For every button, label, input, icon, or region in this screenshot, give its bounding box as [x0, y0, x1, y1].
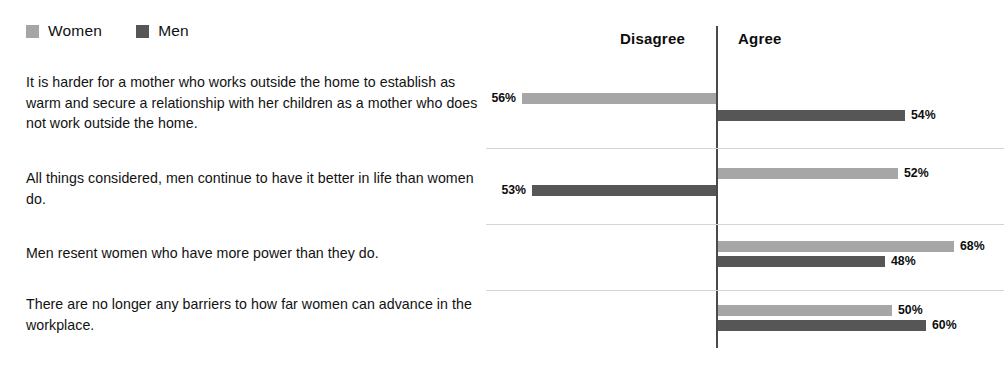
gridline-1: [486, 148, 1004, 149]
bar-label-men-row-4: 60%: [932, 320, 957, 331]
bar-label-women-row-1: 56%: [478, 93, 516, 104]
statement-row-1: It is harder for a mother who works outs…: [26, 72, 481, 134]
statement-row-4: There are no longer any barriers to how …: [26, 294, 481, 335]
women-swatch-icon: [26, 25, 39, 38]
bar-women-row-3: [718, 241, 954, 252]
legend-label-men: Men: [158, 22, 189, 40]
statement-row-3: Men resent women who have more power tha…: [26, 243, 481, 264]
bar-women-row-4: [718, 305, 892, 316]
column-header-disagree: Disagree: [620, 30, 685, 47]
bar-label-women-row-2: 52%: [904, 168, 929, 179]
bar-men-row-1: [718, 110, 905, 121]
bar-men-row-2: [532, 185, 716, 196]
chart-legend: Women Men: [26, 22, 189, 40]
center-axis-line: [716, 26, 718, 348]
column-header-agree: Agree: [738, 30, 782, 47]
legend-label-women: Women: [48, 22, 102, 40]
bar-women-row-2: [718, 168, 898, 179]
gridline-2: [486, 224, 1004, 225]
bar-men-row-3: [718, 256, 885, 267]
bar-women-row-1: [522, 93, 716, 104]
diverging-bar-chart: Disagree Agree 56% 54% 52% 53% 68% 48% 5…: [484, 0, 1006, 366]
bar-label-women-row-4: 50%: [898, 305, 923, 316]
bar-label-men-row-3: 48%: [891, 256, 916, 267]
legend-item-women: Women: [26, 22, 102, 40]
men-swatch-icon: [136, 25, 149, 38]
bar-label-women-row-3: 68%: [960, 241, 985, 252]
bar-men-row-4: [718, 320, 926, 331]
legend-item-men: Men: [136, 22, 189, 40]
bar-label-men-row-1: 54%: [911, 110, 936, 121]
statement-row-2: All things considered, men continue to h…: [26, 168, 481, 209]
bar-label-men-row-2: 53%: [488, 185, 526, 196]
gridline-3: [486, 290, 1004, 291]
